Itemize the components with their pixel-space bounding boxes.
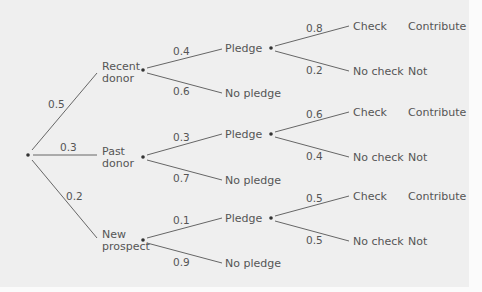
outcome-contribute: Contribute xyxy=(408,106,467,119)
node-pledge xyxy=(269,46,273,50)
label-pledge: Pledge xyxy=(225,212,262,225)
label-no-pledge: No pledge xyxy=(225,174,281,187)
outcome-not: Not xyxy=(408,151,428,164)
label-prospect: prospect xyxy=(102,240,151,253)
label-no-check: No check xyxy=(353,235,404,248)
prob-recent-donor: 0.5 xyxy=(48,98,65,110)
node-new-prospect xyxy=(141,238,145,242)
label-check: Check xyxy=(353,20,387,33)
label-donor: donor xyxy=(102,72,134,85)
edge-new-prospect xyxy=(32,160,97,238)
node-pledge xyxy=(269,132,273,136)
prob-no-pledge: 0.9 xyxy=(173,256,190,268)
prob-past-donor: 0.3 xyxy=(60,141,77,153)
prob-pledge: 0.1 xyxy=(173,214,190,226)
prob-no-check: 0.5 xyxy=(306,234,323,246)
outcome-not: Not xyxy=(408,235,428,248)
label-check: Check xyxy=(353,190,387,203)
prob-new-prospect: 0.2 xyxy=(66,190,83,202)
label-check: Check xyxy=(353,106,387,119)
node-recent-donor xyxy=(141,68,145,72)
label-no-pledge: No pledge xyxy=(225,257,281,270)
prob-no-check: 0.2 xyxy=(306,64,323,76)
label-pledge: Pledge xyxy=(225,128,262,141)
label-no-check: No check xyxy=(353,65,404,78)
label-no-pledge: No pledge xyxy=(225,87,281,100)
node-pledge xyxy=(269,216,273,220)
outcome-contribute: Contribute xyxy=(408,20,467,33)
prob-no-check: 0.4 xyxy=(306,150,323,162)
prob-check: 0.5 xyxy=(306,192,323,204)
outcome-not: Not xyxy=(408,65,428,78)
label-no-check: No check xyxy=(353,151,404,164)
label-donor: donor xyxy=(102,157,134,170)
node-past-donor xyxy=(141,155,145,159)
probability-tree: 0.5 0.3 0.2 Recent donor Past donor New … xyxy=(0,0,482,292)
prob-pledge: 0.3 xyxy=(173,131,190,143)
root-node xyxy=(26,153,30,157)
prob-check: 0.6 xyxy=(306,108,323,120)
prob-no-pledge: 0.6 xyxy=(173,85,190,97)
prob-no-pledge: 0.7 xyxy=(173,172,190,184)
label-pledge: Pledge xyxy=(225,42,262,55)
edge-recent-donor xyxy=(32,73,97,150)
outcome-contribute: Contribute xyxy=(408,190,467,203)
prob-pledge: 0.4 xyxy=(173,45,190,57)
prob-check: 0.8 xyxy=(306,22,323,34)
